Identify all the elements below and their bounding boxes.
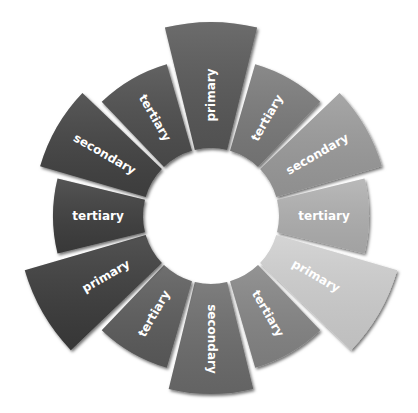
segment-label: tertiary — [298, 209, 350, 223]
segment-label: secondary — [205, 304, 219, 374]
color-wheel-diagram: primarytertiarysecondarytertiaryprimaryt… — [0, 0, 418, 413]
segment-label: tertiary — [72, 209, 124, 223]
segment-label: primary — [204, 68, 218, 121]
